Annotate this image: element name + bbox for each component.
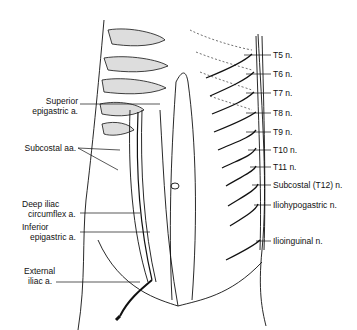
label-t11-nerve: T11 n. [273, 162, 296, 172]
label-iliohypogastric-nerve: Iliohypogastric n. [273, 200, 337, 210]
label-line: Subcostal aa. [0, 143, 76, 153]
label-subcostal-t12-nerve: Subcostal (T12) n. [273, 180, 342, 190]
label-line: Deep iliac [22, 199, 76, 209]
label-t6-nerve: T6 n. [273, 69, 292, 79]
label-line: External [24, 266, 55, 276]
label-t10-nerve: T10 n. [273, 145, 297, 155]
label-line: Inferior [22, 222, 76, 232]
label-line: epigastric a. [0, 106, 78, 116]
label-line: circumflex a. [22, 209, 76, 219]
label-subcostal-arteries: Subcostal aa. [0, 143, 76, 153]
label-line: iliac a. [24, 276, 55, 286]
label-line: Superior [0, 96, 78, 106]
label-deep-iliac-circumflex-artery: Deep iliac circumflex a. [22, 199, 76, 219]
label-external-iliac-artery: External iliac a. [24, 266, 55, 286]
label-t8-nerve: T8 n. [273, 108, 292, 118]
label-superior-epigastric-artery: Superior epigastric a. [0, 96, 78, 116]
label-t9-nerve: T9 n. [273, 127, 292, 137]
label-line: epigastric a. [22, 232, 76, 242]
label-t7-nerve: T7 n. [273, 88, 292, 98]
label-inferior-epigastric-artery: Inferior epigastric a. [22, 222, 76, 242]
label-ilioinguinal-nerve: Ilioinguinal n. [273, 236, 323, 246]
label-t5-nerve: T5 n. [273, 50, 292, 60]
